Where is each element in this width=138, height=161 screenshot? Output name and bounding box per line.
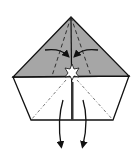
center-slit (71, 82, 74, 120)
origami-diagram (0, 0, 138, 161)
